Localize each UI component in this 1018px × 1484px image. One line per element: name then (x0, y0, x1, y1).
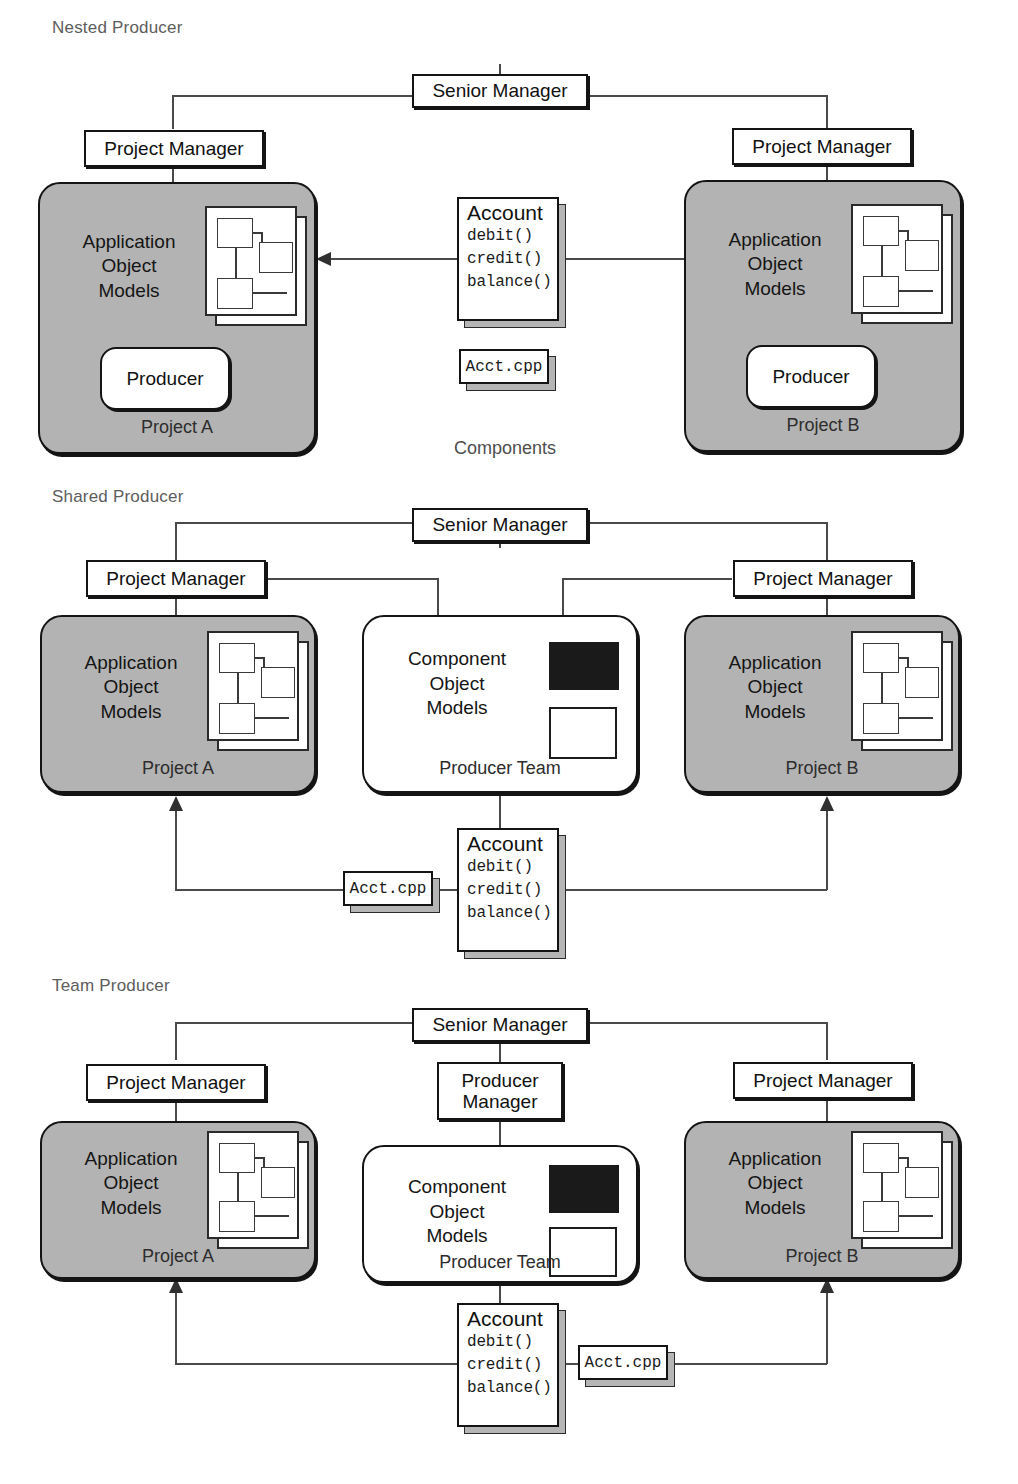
producer-team-footer-label: Producer Team (364, 1252, 636, 1273)
component-swatch-dark-team (549, 1165, 619, 1213)
connector-senior-right-1 (587, 95, 827, 97)
producer-pill-b-nested[interactable]: Producer (746, 345, 876, 408)
project-a-footer-label: Project A (42, 758, 314, 779)
connector-team-to-account-2 (499, 793, 501, 828)
producer-team-footer-label: Producer Team (364, 758, 636, 779)
connector-account-to-a-up-3 (175, 1292, 177, 1364)
application-object-models-label-b: Application Object Models (700, 651, 850, 724)
senior-manager-box-team[interactable]: Senior Manager (412, 1008, 588, 1042)
section-label-nested-producer: Nested Producer (52, 18, 183, 38)
project-b-footer-label: Project B (686, 415, 960, 436)
project-manager-label: Project Manager (104, 138, 243, 159)
component-name: Account (459, 199, 557, 225)
component-swatch-light-shared (549, 707, 617, 759)
project-b-footer-label: Project B (686, 1246, 958, 1267)
connector-pm-a-to-team (268, 578, 438, 580)
application-object-models-label-a: Application Object Models (54, 230, 204, 303)
component-name: Account (459, 830, 557, 856)
connector-pm-to-project-a-1 (172, 167, 174, 182)
connector-senior-left-2 (175, 522, 412, 524)
project-manager-label: Project Manager (753, 568, 892, 589)
object-model-diagram-icon-b (851, 631, 953, 751)
object-model-diagram-icon-b (851, 1131, 953, 1249)
project-b-container-shared[interactable]: Application Object Models Project B (684, 615, 960, 793)
arrow-to-project-b-shared (820, 796, 834, 811)
producer-manager-box-team[interactable]: Producer Manager (437, 1062, 563, 1120)
connector-account-to-b-up-3 (826, 1292, 828, 1364)
object-model-diagram-icon-a (207, 1131, 309, 1249)
component-object-models-label-team: Component Object Models (372, 1175, 542, 1249)
arrow-to-project-a-shared (169, 796, 183, 811)
source-file-box-shared[interactable]: Acct.cpp (343, 871, 433, 906)
source-file-label: Acct.cpp (466, 358, 543, 376)
senior-manager-label: Senior Manager (432, 514, 567, 535)
project-manager-a-box-nested[interactable]: Project Manager (84, 130, 264, 167)
connector-down-left-1 (172, 95, 174, 129)
connector-account-to-b-up-2 (826, 810, 828, 890)
senior-manager-label: Senior Manager (432, 1014, 567, 1035)
connector-pm-b-to-team (562, 578, 732, 580)
producer-manager-label-line1: Producer (461, 1070, 538, 1091)
component-operation: credit() (459, 1354, 557, 1377)
application-object-models-label-a: Application Object Models (56, 651, 206, 724)
source-file-box-team[interactable]: Acct.cpp (578, 1345, 668, 1380)
producer-team-container-team[interactable]: Component Object Models Producer Team (362, 1145, 638, 1283)
component-account-team[interactable]: Account debit() credit() balance() (457, 1303, 559, 1427)
project-a-footer-label: Project A (40, 417, 314, 438)
section-label-team-producer: Team Producer (52, 976, 170, 996)
source-file-box-nested[interactable]: Acct.cpp (459, 349, 549, 384)
project-manager-label: Project Manager (752, 136, 891, 157)
project-b-container-team[interactable]: Application Object Models Project B (684, 1121, 960, 1279)
connector-down-right-3 (826, 1022, 828, 1060)
component-account-nested[interactable]: Account debit() credit() balance() (457, 197, 559, 321)
connector-team-to-account-3 (499, 1283, 501, 1303)
component-object-models-label-shared: Component Object Models (372, 647, 542, 721)
component-account-shared[interactable]: Account debit() credit() balance() (457, 828, 559, 952)
object-model-diagram-icon-b (851, 204, 953, 324)
section-label-shared-producer: Shared Producer (52, 487, 184, 507)
producer-team-container-shared[interactable]: Component Object Models Producer Team (362, 615, 638, 793)
senior-manager-box-nested[interactable]: Senior Manager (412, 74, 588, 108)
object-model-diagram-icon-a (207, 631, 309, 751)
connector-pm-a-to-team-down (437, 578, 439, 615)
project-a-container-shared[interactable]: Application Object Models Project A (40, 615, 316, 793)
project-manager-label: Project Manager (106, 568, 245, 589)
project-a-container-team[interactable]: Application Object Models Project A (40, 1121, 316, 1279)
project-manager-label: Project Manager (106, 1072, 245, 1093)
producer-pill-a-nested[interactable]: Producer (100, 347, 230, 410)
connector-senior-left-3 (175, 1022, 412, 1024)
connector-account-to-b (560, 258, 688, 260)
connector-down-left-2 (175, 522, 177, 560)
arrow-to-project-a-team (169, 1278, 183, 1293)
project-manager-b-box-nested[interactable]: Project Manager (732, 128, 912, 165)
senior-manager-box-shared[interactable]: Senior Manager (412, 508, 588, 542)
project-a-container-nested[interactable]: Application Object Models Producer Proje… (38, 182, 316, 454)
application-object-models-label-a: Application Object Models (56, 1147, 206, 1220)
source-file-label: Acct.cpp (350, 880, 427, 898)
component-name: Account (459, 1305, 557, 1331)
application-object-models-label-b: Application Object Models (700, 1147, 850, 1220)
component-operation: balance() (459, 271, 557, 294)
connector-producer-manager-to-team (499, 1121, 501, 1145)
project-manager-b-box-team[interactable]: Project Manager (733, 1062, 913, 1099)
arrow-to-project-b-team (820, 1278, 834, 1293)
component-operation: debit() (459, 856, 557, 879)
project-manager-a-box-shared[interactable]: Project Manager (86, 560, 266, 597)
arrow-to-project-a-nested (316, 252, 331, 266)
producer-manager-label-line2: Manager (463, 1091, 538, 1112)
components-caption: Components (420, 438, 590, 459)
producer-label: Producer (126, 368, 203, 390)
component-operation: debit() (459, 225, 557, 248)
component-operation: debit() (459, 1331, 557, 1354)
connector-pm-to-project-a-3 (175, 1101, 177, 1121)
component-operation: credit() (459, 879, 557, 902)
component-operation: credit() (459, 248, 557, 271)
component-operation: balance() (459, 902, 557, 925)
project-manager-a-box-team[interactable]: Project Manager (86, 1064, 266, 1101)
object-model-diagram-icon-a (205, 206, 307, 326)
connector-senior-right-3 (587, 1022, 827, 1024)
project-b-container-nested[interactable]: Application Object Models Producer Proje… (684, 180, 962, 452)
project-manager-b-box-shared[interactable]: Project Manager (733, 560, 913, 597)
senior-manager-label: Senior Manager (432, 80, 567, 101)
project-manager-label: Project Manager (753, 1070, 892, 1091)
